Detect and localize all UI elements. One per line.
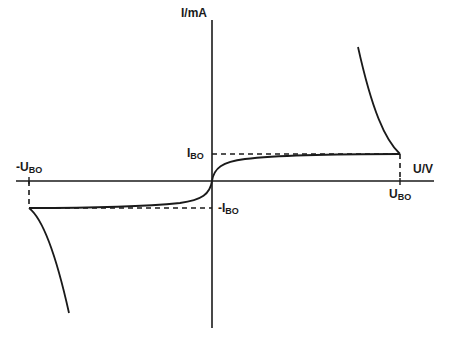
u-bo-pos-label: UBO xyxy=(389,187,411,202)
y-axis-label: I/mA xyxy=(181,6,207,20)
x-axis-label: U/V xyxy=(413,162,433,176)
right-breakdown-curve xyxy=(358,47,400,154)
center-curve xyxy=(212,154,400,181)
i-bo-pos-label: IBO xyxy=(187,146,204,161)
left-breakdown-curve xyxy=(29,208,69,313)
i-bo-neg-label: -IBO xyxy=(218,201,239,216)
center-curve-neg xyxy=(29,181,212,208)
iv-characteristic-diagram xyxy=(0,0,455,342)
u-bo-neg-label: -UBO xyxy=(16,160,42,175)
